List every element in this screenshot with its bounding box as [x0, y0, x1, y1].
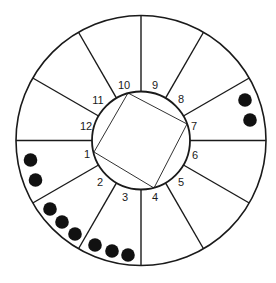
house-label-12: 12 [80, 120, 92, 132]
dot-marker [243, 113, 257, 127]
dot-marker [24, 153, 38, 167]
dot-marker [121, 248, 135, 262]
house-divider-line [166, 183, 204, 249]
dot-marker [88, 238, 102, 252]
dot-marker [68, 227, 82, 241]
house-label-8: 8 [178, 93, 184, 105]
dot-group-house-7 [238, 93, 257, 127]
dot-marker [238, 93, 252, 107]
dot-group-house-2 [43, 202, 82, 241]
inner-circle [92, 92, 190, 190]
house-label-4: 4 [152, 191, 158, 203]
house-label-9: 9 [152, 79, 158, 91]
house-divider-line [183, 165, 249, 203]
dot-marker [43, 202, 57, 216]
house-label-11: 11 [92, 94, 103, 106]
house-label-7: 7 [191, 120, 197, 132]
house-label-1: 1 [84, 148, 90, 160]
house-label-5: 5 [178, 176, 184, 188]
dot-marker [55, 215, 69, 229]
house-divider-line [79, 32, 117, 98]
house-divider-line [33, 78, 99, 116]
house-label-6: 6 [192, 149, 198, 161]
dot-marker [29, 173, 43, 187]
house-divider-line [33, 165, 99, 203]
dot-group-house-3 [88, 238, 135, 262]
house-wheel-diagram: 123456789101112 [0, 0, 276, 283]
dot-marker [105, 244, 119, 258]
dot-group-house-1 [24, 153, 43, 187]
house-divider-line [166, 32, 204, 98]
house-label-2: 2 [97, 176, 103, 188]
house-label-10: 10 [118, 79, 130, 91]
house-label-3: 3 [122, 191, 128, 203]
